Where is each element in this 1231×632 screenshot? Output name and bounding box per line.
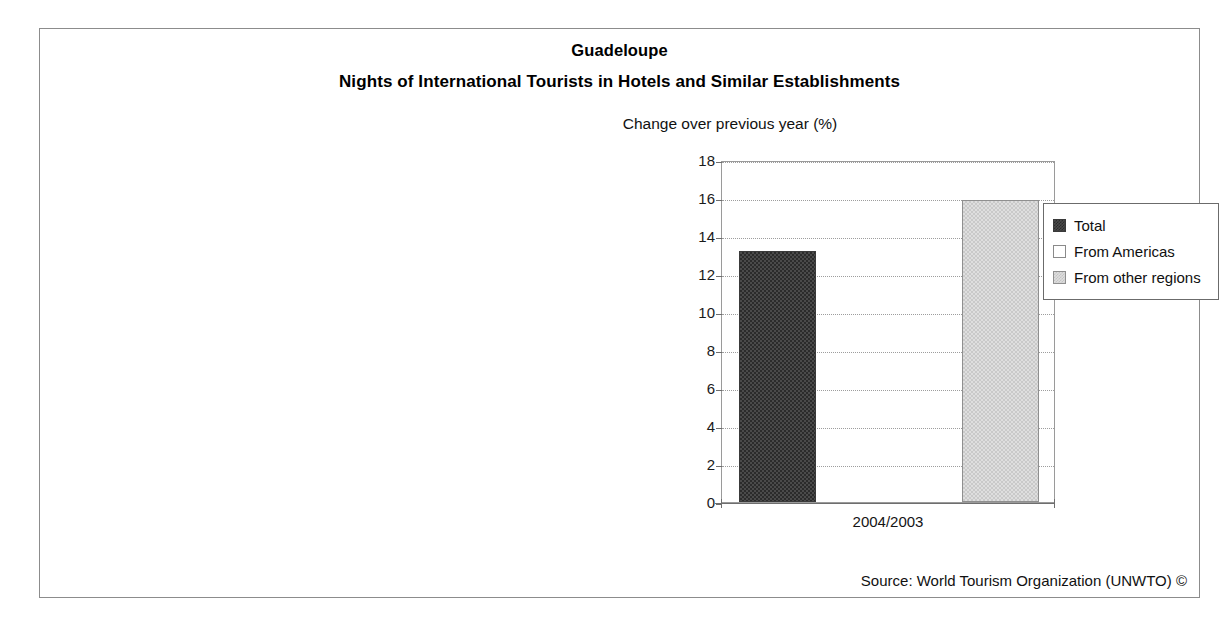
y-axis-tick-label: 8	[677, 343, 715, 358]
y-axis-tick	[716, 466, 722, 467]
plot-wrapper: 024681012141618 2004/2003 Total From Ame…	[677, 155, 1077, 555]
y-axis-tick-label: 2	[677, 457, 715, 472]
y-axis-tick-label: 4	[677, 419, 715, 434]
legend-item-total[interactable]: Total	[1053, 212, 1209, 238]
y-axis-tick	[716, 200, 722, 201]
chart-legend: Total From Americas From other regions	[1043, 203, 1219, 300]
gridline	[722, 162, 1054, 163]
chart-subtitle: Nights of International Tourists in Hote…	[40, 72, 1199, 92]
y-axis-unit-note: Change over previous year (%)	[520, 115, 940, 133]
x-axis-endcap-left	[721, 499, 722, 508]
legend-label-from-other-regions: From other regions	[1074, 270, 1201, 285]
legend-label-from-americas: From Americas	[1074, 244, 1175, 259]
y-axis-tick	[716, 276, 722, 277]
legend-label-total: Total	[1074, 218, 1106, 233]
y-axis-tick-labels: 024681012141618	[677, 161, 715, 503]
page-title: Guadeloupe	[40, 41, 1199, 60]
y-axis-tick	[716, 314, 722, 315]
bar-total	[739, 251, 816, 502]
y-axis-tick-label: 10	[677, 305, 715, 320]
legend-item-from-americas[interactable]: From Americas	[1053, 238, 1209, 264]
y-axis-tick	[716, 162, 722, 163]
y-axis-tick	[716, 238, 722, 239]
plot-area	[721, 161, 1055, 503]
legend-swatch-other-icon	[1053, 271, 1066, 284]
x-axis-endcap-right	[1054, 499, 1055, 508]
y-axis-tick-label: 6	[677, 381, 715, 396]
legend-swatch-americas-icon	[1053, 245, 1066, 258]
y-axis-tick	[716, 352, 722, 353]
source-note: Source: World Tourism Organization (UNWT…	[861, 572, 1187, 589]
x-axis-category-label: 2004/2003	[721, 513, 1055, 530]
y-axis-tick	[716, 428, 722, 429]
figure-frame: Guadeloupe Nights of International Touri…	[39, 28, 1200, 598]
legend-swatch-total-icon	[1053, 219, 1066, 232]
y-axis-tick-label: 18	[677, 153, 715, 168]
bar-from-other-regions	[962, 200, 1039, 502]
x-axis-line	[721, 503, 1055, 504]
y-axis-tick	[716, 390, 722, 391]
y-axis-tick-label: 14	[677, 229, 715, 244]
legend-item-from-other-regions[interactable]: From other regions	[1053, 264, 1209, 290]
y-axis-tick-label: 12	[677, 267, 715, 282]
y-axis-tick-label: 16	[677, 191, 715, 206]
chart-page: Guadeloupe Nights of International Touri…	[0, 0, 1231, 632]
y-axis-tick-label: 0	[677, 495, 715, 510]
